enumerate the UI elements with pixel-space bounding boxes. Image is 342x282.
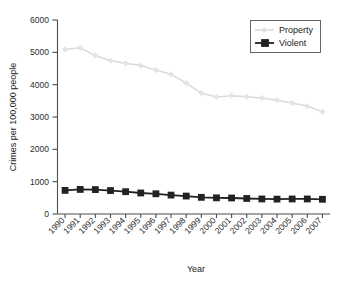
y-tick-label: 5000	[30, 47, 49, 57]
chart-canvas: 0100020003000400050006000 19901991199219…	[0, 0, 342, 282]
data-point-marker	[258, 196, 265, 203]
data-point-marker	[92, 186, 99, 193]
legend-swatch-violent-marker	[261, 39, 269, 47]
data-point-marker	[122, 188, 129, 195]
data-point-marker	[243, 195, 250, 202]
data-point-marker	[304, 196, 311, 203]
y-tick-label: 0	[44, 209, 49, 219]
x-axis-title: Year	[187, 264, 205, 274]
legend-label-violent: Violent	[279, 38, 307, 48]
legend-label-property: Property	[279, 25, 314, 35]
data-point-marker	[319, 196, 326, 203]
data-point-marker	[228, 195, 235, 202]
data-point-marker	[137, 190, 144, 197]
y-tick-label: 2000	[30, 144, 49, 154]
y-tick-label: 3000	[30, 112, 49, 122]
data-point-marker	[183, 193, 190, 200]
y-axis-title: Crimes per 100,000 people	[8, 63, 18, 172]
data-point-marker	[289, 196, 296, 203]
legend-entry-violent[interactable]: Violent	[255, 38, 307, 48]
data-point-marker	[274, 196, 281, 203]
data-point-marker	[62, 187, 69, 194]
chart-legend: Property Violent	[251, 21, 321, 53]
data-point-marker	[107, 187, 114, 194]
data-point-marker	[168, 192, 175, 199]
data-point-marker	[213, 194, 220, 201]
data-point-marker	[153, 190, 160, 197]
y-tick-label: 6000	[30, 15, 49, 25]
y-tick-label: 1000	[30, 177, 49, 187]
data-point-marker	[77, 186, 84, 193]
data-point-marker	[198, 194, 205, 201]
crime-rate-line-chart: 0100020003000400050006000 19901991199219…	[0, 0, 342, 282]
y-tick-label: 4000	[30, 80, 49, 90]
